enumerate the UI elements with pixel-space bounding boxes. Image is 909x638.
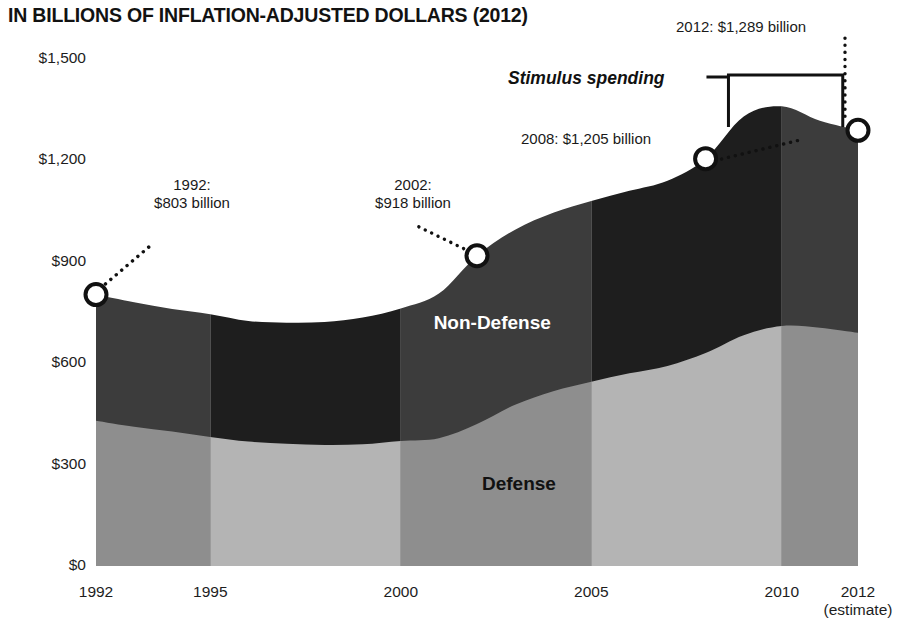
data-point-marker-2002 <box>467 245 488 266</box>
callout-1992-line1: 1992: <box>154 176 230 194</box>
series-label-non-defense: Non-Defense <box>434 312 551 334</box>
x-axis-tick-1992: 1992 <box>79 583 113 601</box>
x-axis-tick-2005: 2005 <box>574 583 608 601</box>
data-point-marker-2012 <box>848 120 869 141</box>
callout-2002: 2002: $918 billion <box>375 176 451 213</box>
x-tick-label: 2000 <box>384 583 418 600</box>
x-axis-tick-2000: 2000 <box>384 583 418 601</box>
chart-container: IN BILLIONS OF INFLATION-ADJUSTED DOLLAR… <box>0 0 909 638</box>
callout-2008: 2008: $1,205 billion <box>521 130 651 148</box>
x-tick-label: 2012 <box>841 583 875 600</box>
data-point-marker-2008 <box>695 148 716 169</box>
x-tick-label: 1992 <box>79 583 113 600</box>
x-axis-tick-1995: 1995 <box>193 583 227 601</box>
x-tick-label: 2010 <box>765 583 799 600</box>
callout-1992-line2: $803 billion <box>154 194 230 212</box>
callout-2012: 2012: $1,289 billion <box>676 18 806 36</box>
x-axis-tick-2010: 2010 <box>765 583 799 601</box>
callout-2002-line2: $918 billion <box>375 194 451 212</box>
x-tick-sublabel: (estimate) <box>824 601 893 619</box>
x-tick-label: 2005 <box>574 583 608 600</box>
x-tick-label: 1995 <box>193 583 227 600</box>
x-axis-tick-2012: 2012 (estimate) <box>824 583 893 619</box>
data-point-marker-1992 <box>86 284 107 305</box>
callout-2002-line1: 2002: <box>375 176 451 194</box>
callout-1992: 1992: $803 billion <box>154 176 230 213</box>
stimulus-spending-label: Stimulus spending <box>508 68 665 89</box>
series-label-defense: Defense <box>482 473 556 495</box>
